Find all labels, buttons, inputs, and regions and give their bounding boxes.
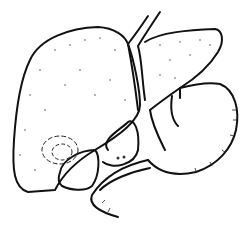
liver-right-lobe [13, 27, 140, 192]
gallbladder-outline [42, 136, 78, 164]
liver-left-lobe [145, 29, 222, 110]
duodenum [59, 121, 139, 190]
suture-marks [117, 156, 126, 160]
stomach [148, 83, 237, 174]
gallbladder-inner [52, 144, 72, 160]
jejunal-limb [91, 160, 150, 217]
liver-stipple [19, 37, 210, 170]
anatomy-drawing [0, 0, 249, 240]
illustration [0, 0, 249, 240]
